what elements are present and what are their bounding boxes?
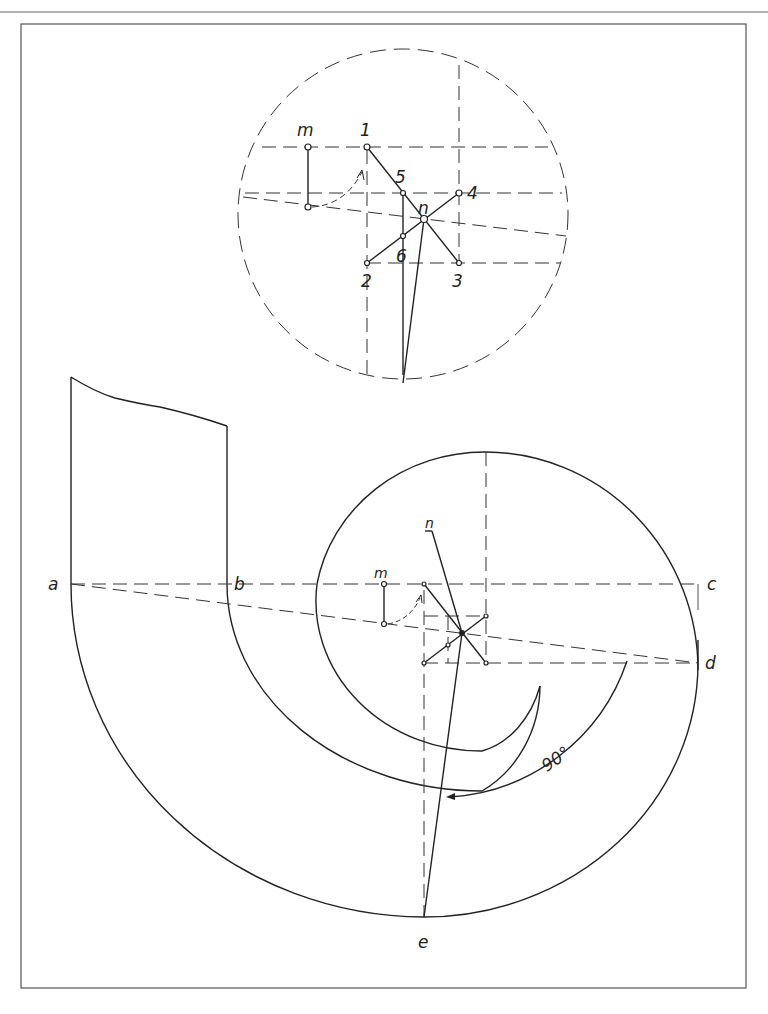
label-m-main: m (374, 565, 388, 581)
label-b: b (234, 574, 245, 594)
label-3: 3 (452, 271, 463, 291)
label-a: a (48, 574, 58, 594)
label-e: e (418, 932, 428, 952)
label-6: 6 (396, 246, 407, 266)
detail-circle: m 1 5 4 n 6 2 3 (238, 49, 568, 383)
main-scroll-drawing: a b c d e m n 90° (48, 377, 717, 952)
label-m-detail: m (297, 120, 314, 140)
label-90-degrees: 90° (538, 742, 574, 776)
label-2: 2 (361, 271, 372, 291)
technical-drawing: m 1 5 4 n 6 2 3 (0, 0, 768, 1014)
label-d: d (705, 653, 716, 673)
label-n-detail: n (418, 198, 429, 218)
label-5: 5 (395, 167, 406, 187)
label-c: c (707, 574, 717, 594)
label-1: 1 (360, 120, 371, 140)
label-4: 4 (467, 183, 478, 203)
label-n-main: n (425, 515, 434, 531)
